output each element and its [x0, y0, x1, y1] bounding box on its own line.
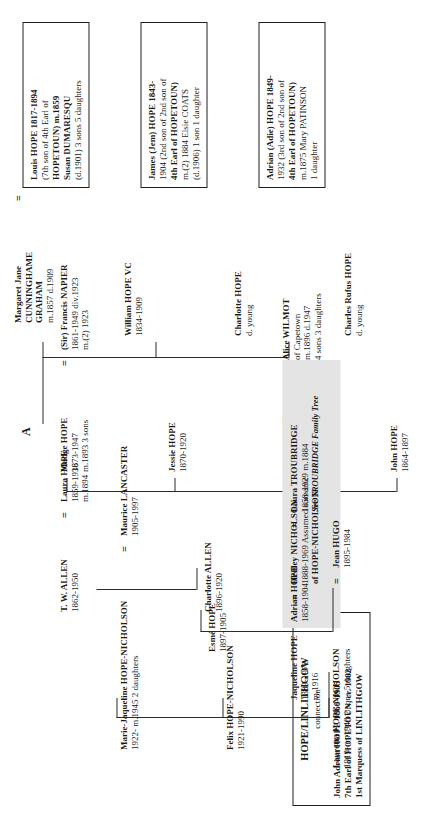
allen-descent-tick: [196, 568, 197, 590]
box-adrian-adie-hope: Adrian (Adie) HOPE 1849- 1932 (3rd son o…: [258, 22, 325, 188]
box-adie-line-3: m.1875 Mary PATINSON: [297, 30, 308, 180]
marriage-symbol-lauretta-jean: =: [330, 578, 341, 584]
family-tree-canvas: Louis HOPE 1817-1894 (7th son of 4th Ear…: [0, 0, 425, 828]
jessie-detail: 1870-1920: [177, 372, 188, 472]
charles-rufus-detail: d. young: [353, 206, 364, 336]
felix-detail: 1921-1990: [235, 600, 246, 750]
napier-detail: 1861-1949 div.1923: [69, 220, 80, 350]
margaret-name-3: GRAHAM: [33, 193, 44, 323]
tw-allen-name: T. W. ALLEN: [58, 520, 69, 612]
maurice-detail: 1905-1997: [129, 406, 140, 536]
margaret-name-2: CUNNINGHAME: [23, 193, 34, 323]
jean-hugo-detail: 1895-1984: [341, 458, 352, 568]
lauretta-name: Lauretta HOPE-NICHOLSON: [330, 590, 341, 768]
person-jean-hugo: Jean HUGO 1895-1984: [330, 458, 351, 568]
margaret-name-1: Margaret Jane: [12, 193, 23, 323]
person-felix-hope-nicholson: Felix HOPE-NICHOLSON 1921-1990: [224, 600, 245, 750]
marriage-symbol-madge-napier: =: [58, 360, 69, 366]
person-charles-rufus-hope: Charles Rufus HOPE d. young: [342, 206, 363, 336]
hedley-detail: 1888-1969 Assumed surname: [299, 414, 310, 584]
box-james-line-1: 1904 (2nd son of 2nd son of: [157, 30, 168, 180]
jessie-name: Jessie HOPE: [166, 372, 177, 472]
box-adie-line-2: 4th Earl of HOPETOUN): [286, 30, 297, 180]
william-name: William HOPE VC: [122, 211, 133, 336]
person-jessie-hope: Jessie HOPE 1870-1920: [166, 372, 187, 472]
marie-jaqueline-name: Marie-Jaqueline HOPE-NICHOLSON: [118, 558, 129, 750]
box-james-line-3: m.(2) 1884 Elsie COATS: [179, 30, 190, 180]
sibling-tick-william: [42, 342, 43, 358]
nicholson-tick-marie: [116, 698, 117, 718]
marriage-symbol-marie-maurice: =: [118, 546, 129, 552]
person-tw-allen: T. W. ALLEN 1862-1950: [58, 520, 79, 612]
box-james-line-0: James (Jem) HOPE 1843-: [146, 30, 157, 180]
napier-detail2: m.(2) 1923: [79, 220, 90, 350]
marriage-symbol-jaqueline-hedley: =: [288, 594, 299, 600]
charlotte-hope-name: Charlotte HOPE: [232, 216, 243, 336]
nicholson-tick-felix: [222, 698, 223, 718]
box-adie-line-0: Adrian (Adie) HOPE 1849-: [264, 30, 275, 180]
alice-detail2: m.1896 d.1947: [301, 234, 312, 360]
tw-allen-detail: 1862-1950: [69, 520, 80, 612]
box-adie-line-4: 1 daughter: [308, 30, 319, 180]
box-adie-line-1: 1932 (3rd son of 2nd son of: [275, 30, 286, 180]
hedley-name: Hedley NICHOLSON: [288, 414, 299, 584]
maurice-name: Maurice LANCASTER: [118, 406, 129, 536]
person-charlotte-hope: Charlotte HOPE d. young: [232, 216, 253, 336]
person-hedley-nicholson: Hedley NICHOLSON 1888-1969 Assumed surna…: [288, 414, 320, 584]
person-marie-jaqueline-hope-nicholson: Marie-Jaqueline HOPE-NICHOLSON 1922- m.1…: [118, 558, 139, 750]
jaqueline-name: Jaqueline HOPE: [288, 604, 299, 700]
box-louis-line-4: (d.1901) 3 sons 5 daughters: [72, 30, 83, 180]
lauretta-detail: 1919- m.1948 2 sons 5 daughters: [341, 590, 352, 768]
john-hope-name: John HOPE: [388, 378, 399, 472]
alice-detail3: 4 sons 3 daughters: [312, 234, 323, 360]
william-detail: 1834-1909: [133, 211, 144, 336]
person-maurice-lancaster: Maurice LANCASTER 1905-1997: [118, 406, 139, 536]
john-hope-detail: 1864-1897: [399, 378, 410, 472]
charlotte-hope-detail: d. young: [243, 216, 254, 336]
sibling-tick-charlotte: [155, 342, 156, 358]
person-alice-wilmot: Alice WILMOT of Capetown m.1896 d.1947 4…: [280, 234, 322, 360]
nicholson-tick-lauretta: [328, 698, 329, 718]
person-john-hope: John HOPE 1864-1897: [388, 378, 409, 472]
jean-hugo-name: Jean HUGO: [330, 458, 341, 568]
jaqueline-detail: 1889-1972: [299, 604, 310, 700]
box-louis-hope: Louis HOPE 1817-1894 (7th son of 4th Ear…: [22, 22, 89, 188]
laura-hope-detail: 1859-1936: [69, 408, 80, 502]
box-james-line-4: (d.1906) 1 son 1 daughter: [190, 30, 201, 180]
person-jaqueline-hope: Jaqueline HOPE 1889-1972 m.1916: [288, 604, 320, 700]
laura-hope-name: Laura HOPE: [58, 408, 69, 502]
marriage-symbol-louis-margaret: =: [12, 195, 23, 201]
jaqueline-detail2: m.1916: [309, 604, 320, 700]
box-louis-line-3: Susan DUMARESQU: [61, 30, 72, 180]
person-francis-napier: (Sir) Francis NAPIER 1861-1949 div.1923 …: [58, 220, 90, 350]
connection-line-4: 1st Marquess of LINLITHGOW: [353, 620, 364, 798]
connector-a-line: [42, 358, 43, 424]
box-james-line-2: 4th Earl of HOPETOUN): [168, 30, 179, 180]
person-william-hope-vc: William HOPE VC 1834-1909: [122, 211, 143, 336]
person-margaret-jane-cunninghame-graham: Margaret Jane CUNNINGHAME GRAHAM m.1857 …: [12, 193, 54, 323]
margaret-detail: m.1857 d.1909: [44, 193, 55, 323]
napier-name: (Sir) Francis NAPIER: [58, 220, 69, 350]
alice-name: Alice WILMOT: [280, 234, 291, 360]
box-louis-line-1: (7th son of 4th Earl of: [39, 30, 50, 180]
laura-hope-detail2: m.1894: [79, 408, 90, 502]
esme-name: Esmé HOPE: [206, 556, 217, 652]
hedley-detail2: of HOPE-NICHOLSON: [309, 414, 320, 584]
charles-rufus-name: Charles Rufus HOPE: [342, 206, 353, 336]
box-james-jem-hope: James (Jem) HOPE 1843- 1904 (2nd son of …: [140, 22, 207, 188]
adrian-descent-tick-esme: [200, 610, 201, 632]
person-laura-hope: Laura HOPE 1859-1936 m.1894: [58, 408, 90, 502]
felix-name: Felix HOPE-NICHOLSON: [224, 600, 235, 750]
marie-jaqueline-detail: 1922- m.1945 2 daughters: [129, 558, 140, 750]
allen-descent-bus: [96, 589, 196, 590]
marriage-symbol-allen-laura: =: [58, 512, 69, 518]
alice-detail: of Capetown: [291, 234, 302, 360]
sibling-tick-jessie: [174, 478, 175, 492]
sibling-bus-1: [42, 357, 288, 358]
box-louis-line-0: Louis HOPE 1817-1894: [28, 30, 39, 180]
box-louis-line-2: HOPETOUN) m.1859: [50, 30, 61, 180]
sibling-tick-john: [396, 478, 397, 492]
person-lauretta-hope-nicholson: Lauretta HOPE-NICHOLSON 1919- m.1948 2 s…: [330, 590, 351, 768]
connector-label-a: A: [18, 427, 32, 436]
